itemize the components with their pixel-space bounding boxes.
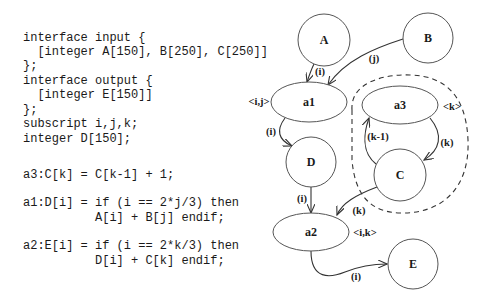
edge-label-a1-D: (i) <box>266 126 276 138</box>
svg-text:D: D <box>307 155 316 169</box>
node-a1: a1 <box>271 82 347 122</box>
node-C: C <box>374 149 426 201</box>
svg-text:a1: a1 <box>303 95 315 109</box>
svg-text:a2: a2 <box>305 225 317 239</box>
dependency-graph: A B a1 D a3 C a2 E <i,j> <k> <i,k> (i) (… <box>0 0 491 307</box>
edge-label-a3-C: (k) <box>441 137 454 149</box>
edge-label-B-a1: (j) <box>369 53 380 65</box>
svg-text:C: C <box>396 168 405 182</box>
node-a2: a2 <box>273 213 349 251</box>
node-E: E <box>388 239 438 289</box>
node-A: A <box>298 14 350 66</box>
annotation-a3: <k> <box>443 101 461 112</box>
edge-label-C-a3: (k-1) <box>367 131 389 143</box>
annotation-a2: <i,k> <box>353 227 376 238</box>
node-D: D <box>286 137 336 187</box>
annotation-a1: <i,j> <box>248 96 269 107</box>
edge-a2-E <box>311 251 387 276</box>
edge-label-C-a2: (k) <box>353 205 366 217</box>
edge-label-a2-E: (i) <box>351 271 361 283</box>
node-a3: a3 <box>362 86 438 124</box>
svg-text:B: B <box>424 31 432 45</box>
edge-a1-D <box>280 118 292 146</box>
svg-text:A: A <box>320 33 329 47</box>
edge-a3-C <box>424 118 439 160</box>
node-B: B <box>403 13 453 63</box>
svg-text:a3: a3 <box>394 98 406 112</box>
edge-label-D-a2: (i) <box>297 193 307 205</box>
edge-label-A-a1: (i) <box>315 66 325 78</box>
edge-A-a1 <box>307 64 314 82</box>
svg-text:E: E <box>409 257 417 271</box>
